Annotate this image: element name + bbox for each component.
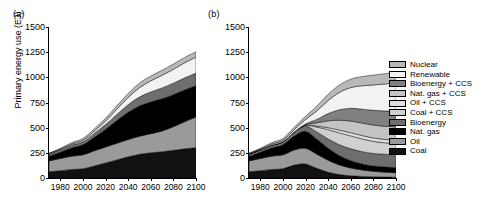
x-axis-tick-mark <box>351 178 352 181</box>
x-axis-tick-mark <box>306 178 307 181</box>
legend-item: Oil + CCS <box>389 98 472 108</box>
legend-item: Oil <box>389 137 472 147</box>
y-axis-tick-label: 1000 <box>225 72 245 82</box>
y-axis-tick-label: 1500 <box>25 22 45 32</box>
y-axis-tick-mark <box>46 27 49 28</box>
legend-swatch <box>389 71 406 78</box>
y-axis-tick-label: 250 <box>230 148 245 158</box>
y-axis-tick-mark <box>246 178 249 179</box>
legend-swatch <box>389 109 406 116</box>
x-axis-tick-mark <box>60 178 61 181</box>
y-axis-tick-label: 0 <box>240 173 245 183</box>
x-axis-tick-label: 2080 <box>364 182 383 192</box>
y-axis-tick-mark <box>246 77 249 78</box>
y-axis-tick-mark <box>246 52 249 53</box>
plot-area-b: 0250500750100012501500198020002020204020… <box>248 27 396 179</box>
legend-item: Nat. gas + CCS <box>389 89 472 99</box>
y-axis-label: Primary energy use (EJ) <box>13 0 23 125</box>
x-axis-tick-mark <box>128 178 129 181</box>
y-axis-tick-mark <box>46 52 49 53</box>
legend-label: Coal + CCS <box>410 108 452 118</box>
legend-swatch <box>389 100 406 107</box>
y-axis-tick-label: 250 <box>30 148 45 158</box>
x-axis-tick-label: 2020 <box>296 182 315 192</box>
x-axis-tick-mark <box>373 178 374 181</box>
panel-a: (a) Primary energy use (EJ) 025050075010… <box>0 0 210 220</box>
x-axis-tick-label: 2060 <box>341 182 360 192</box>
y-axis-tick-mark <box>46 128 49 129</box>
x-axis-tick-mark <box>196 178 197 181</box>
y-axis-tick-label: 1250 <box>25 47 45 57</box>
y-axis-tick-mark <box>46 103 49 104</box>
legend-label: Bioenergy <box>410 118 446 128</box>
legend-item: Nuclear <box>389 60 472 70</box>
y-axis-tick-label: 750 <box>230 98 245 108</box>
x-axis-tick-label: 2080 <box>164 182 183 192</box>
legend-swatch <box>389 119 406 126</box>
y-axis-tick-label: 1500 <box>225 22 245 32</box>
legend-swatch <box>389 138 406 145</box>
y-axis-tick-mark <box>246 153 249 154</box>
legend-swatch <box>389 148 406 155</box>
y-axis-tick-label: 500 <box>30 123 45 133</box>
legend-label: Oil + CCS <box>410 98 446 108</box>
y-axis-tick-label: 750 <box>30 98 45 108</box>
y-axis-tick-label: 1250 <box>225 47 245 57</box>
figure-primary-energy-use: (a) Primary energy use (EJ) 025050075010… <box>0 0 484 220</box>
legend: NuclearRenewableBioenergy + CCSNat. gas … <box>389 60 472 156</box>
y-axis-tick-mark <box>246 27 249 28</box>
x-axis-tick-label: 2060 <box>141 182 160 192</box>
x-axis-tick-mark <box>396 178 397 181</box>
x-axis-tick-mark <box>83 178 84 181</box>
legend-swatch <box>389 80 406 87</box>
legend-label: Nat. gas <box>410 127 440 137</box>
x-axis-tick-label: 2100 <box>187 182 206 192</box>
x-axis-tick-label: 2040 <box>119 182 138 192</box>
x-axis-tick-label: 2000 <box>273 182 292 192</box>
legend-label: Nuclear <box>410 60 438 70</box>
x-axis-tick-mark <box>151 178 152 181</box>
y-axis-tick-mark <box>46 153 49 154</box>
legend-item: Bioenergy + CCS <box>389 79 472 89</box>
x-axis-tick-label: 2020 <box>96 182 115 192</box>
x-axis-tick-label: 2100 <box>387 182 406 192</box>
x-axis-tick-mark <box>283 178 284 181</box>
y-axis-tick-mark <box>46 77 49 78</box>
x-axis-tick-mark <box>260 178 261 181</box>
legend-item: Renewable <box>389 70 472 80</box>
y-axis-tick-label: 0 <box>40 173 45 183</box>
x-axis-tick-label: 2000 <box>73 182 92 192</box>
x-axis-tick-label: 1980 <box>51 182 70 192</box>
legend-label: Renewable <box>410 70 450 80</box>
y-axis-tick-mark <box>246 103 249 104</box>
y-axis-tick-label: 1000 <box>25 72 45 82</box>
x-axis-tick-mark <box>173 178 174 181</box>
x-axis-tick-label: 2040 <box>319 182 338 192</box>
y-axis-tick-mark <box>46 178 49 179</box>
legend-label: Oil <box>410 137 420 147</box>
legend-label: Coal <box>410 146 426 156</box>
y-axis-tick-label: 500 <box>230 123 245 133</box>
legend-label: Bioenergy + CCS <box>410 79 472 89</box>
plot-area-a: 0250500750100012501500198020002020204020… <box>48 27 196 179</box>
legend-label: Nat. gas + CCS <box>410 89 466 99</box>
y-axis-tick-mark <box>246 128 249 129</box>
x-axis-tick-mark <box>106 178 107 181</box>
x-axis-tick-label: 1980 <box>251 182 270 192</box>
panel-b: (b) 025050075010001250150019802000202020… <box>205 0 385 220</box>
legend-swatch <box>389 90 406 97</box>
panel-b-label: (b) <box>208 9 220 19</box>
legend-item: Nat. gas <box>389 127 472 137</box>
legend-swatch <box>389 128 406 135</box>
legend-item: Coal <box>389 146 472 156</box>
legend-item: Coal + CCS <box>389 108 472 118</box>
legend-swatch <box>389 61 406 68</box>
legend-item: Bioenergy <box>389 118 472 128</box>
x-axis-tick-mark <box>328 178 329 181</box>
